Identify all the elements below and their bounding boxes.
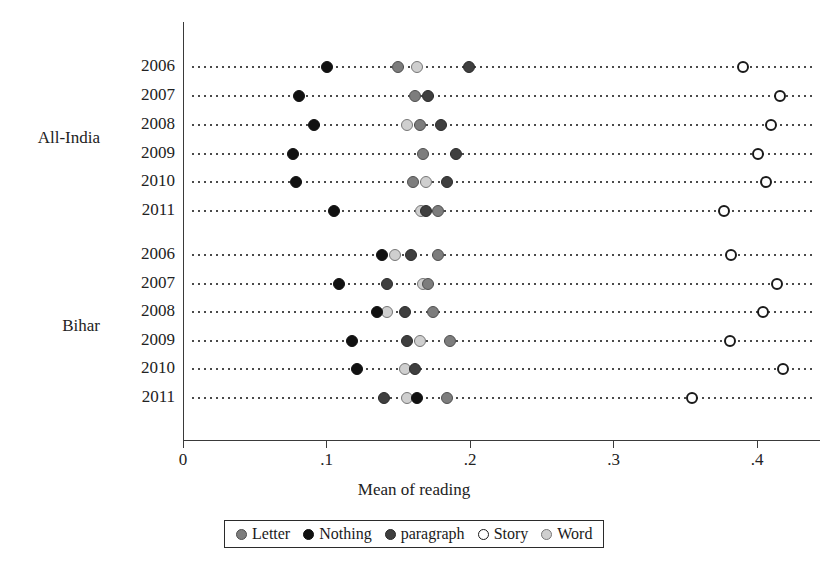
y-axis-line (183, 22, 184, 440)
legend-marker-paragraph-icon (385, 529, 396, 540)
point-bihar-2007-story (771, 278, 783, 290)
point-bihar-2011-paragraph (378, 392, 390, 404)
x-axis-title: Mean of reading (0, 480, 828, 500)
point-all-india-2010-nothing (290, 176, 302, 188)
x-tick-label-.1: .1 (307, 450, 347, 470)
x-tick-label-.3: .3 (594, 450, 634, 470)
point-all-india-2009-nothing (287, 148, 299, 160)
point-all-india-2011-nothing (328, 205, 340, 217)
point-all-india-2007-nothing (293, 90, 305, 102)
y-tick-label-all-india-2011: 2011 (105, 200, 175, 220)
y-tick-label-bihar-2008: 2008 (105, 301, 175, 321)
point-bihar-2010-nothing (351, 363, 363, 375)
row-guide-bihar-2009 (190, 340, 812, 342)
point-bihar-2007-paragraph (381, 278, 393, 290)
point-all-india-2011-letter (432, 205, 444, 217)
row-guide-bihar-2011 (190, 397, 812, 399)
row-guide-bihar-2008 (190, 311, 812, 313)
x-tick-.2 (470, 441, 471, 448)
point-bihar-2006-letter (432, 249, 444, 261)
y-tick-label-all-india-2007: 2007 (105, 85, 175, 105)
legend-label-letter: Letter (252, 526, 290, 542)
legend-marker-letter-icon (236, 529, 247, 540)
legend-item-paragraph[interactable]: paragraph (385, 526, 465, 542)
legend-marker-story-icon (478, 529, 489, 540)
legend-label-word: Word (557, 526, 592, 542)
chart-canvas: 0.1.2.3.4Mean of reading2006200720082009… (0, 0, 828, 585)
y-tick-label-all-india-2009: 2009 (105, 143, 175, 163)
legend-label-story: Story (494, 526, 529, 542)
point-all-india-2008-story (765, 119, 777, 131)
row-guide-bihar-2010 (190, 368, 812, 370)
point-bihar-2006-paragraph (405, 249, 417, 261)
point-bihar-2007-nothing (333, 278, 345, 290)
group-label-all-india: All-India (5, 128, 100, 148)
point-bihar-2008-paragraph (399, 306, 411, 318)
point-bihar-2009-paragraph (401, 335, 413, 347)
point-bihar-2006-nothing (376, 249, 388, 261)
legend-marker-nothing-icon (303, 529, 314, 540)
x-tick-label-0: 0 (163, 450, 203, 470)
legend-item-nothing[interactable]: Nothing (303, 526, 371, 542)
point-bihar-2006-story (725, 249, 737, 261)
y-tick-label-bihar-2009: 2009 (105, 330, 175, 350)
point-all-india-2006-nothing (321, 61, 333, 73)
group-label-bihar: Bihar (5, 316, 100, 336)
point-bihar-2011-letter (441, 392, 453, 404)
point-all-india-2010-paragraph (441, 176, 453, 188)
point-all-india-2006-word (411, 61, 423, 73)
row-guide-all-india-2009 (190, 153, 812, 155)
point-bihar-2007-letter (422, 278, 434, 290)
row-guide-all-india-2008 (190, 124, 812, 126)
point-bihar-2009-story (724, 335, 736, 347)
point-all-india-2006-letter (392, 61, 404, 73)
x-tick-label-.4: .4 (737, 450, 777, 470)
legend-label-paragraph: paragraph (401, 526, 465, 542)
point-all-india-2007-paragraph (422, 90, 434, 102)
y-tick-label-bihar-2007: 2007 (105, 273, 175, 293)
point-bihar-2009-letter (444, 335, 456, 347)
legend-item-letter[interactable]: Letter (236, 526, 290, 542)
point-all-india-2008-word (401, 119, 413, 131)
point-bihar-2010-story (777, 363, 789, 375)
point-all-india-2008-nothing (308, 119, 320, 131)
y-tick-label-all-india-2006: 2006 (105, 56, 175, 76)
y-tick-label-bihar-2010: 2010 (105, 358, 175, 378)
y-tick-label-bihar-2006: 2006 (105, 244, 175, 264)
row-guide-all-india-2006 (190, 66, 812, 68)
point-all-india-2006-paragraph (463, 61, 475, 73)
point-bihar-2009-word (414, 335, 426, 347)
point-all-india-2010-word (420, 176, 432, 188)
y-tick-label-bihar-2011: 2011 (105, 387, 175, 407)
row-guide-all-india-2010 (190, 181, 812, 183)
y-tick-label-all-india-2010: 2010 (105, 171, 175, 191)
point-all-india-2008-letter (414, 119, 426, 131)
x-tick-.4 (757, 441, 758, 448)
legend-marker-word-icon (541, 529, 552, 540)
point-bihar-2011-story (686, 392, 698, 404)
point-all-india-2011-story (718, 205, 730, 217)
point-all-india-2008-paragraph (435, 119, 447, 131)
point-all-india-2009-paragraph (450, 148, 462, 160)
point-all-india-2006-story (737, 61, 749, 73)
legend-label-nothing: Nothing (319, 526, 371, 542)
x-tick-label-.2: .2 (450, 450, 490, 470)
legend-item-word[interactable]: Word (541, 526, 592, 542)
point-bihar-2009-nothing (346, 335, 358, 347)
point-all-india-2009-letter (417, 148, 429, 160)
x-tick-0 (183, 441, 184, 448)
point-all-india-2011-paragraph (420, 205, 432, 217)
row-guide-all-india-2007 (190, 95, 812, 97)
y-tick-label-all-india-2008: 2008 (105, 114, 175, 134)
point-bihar-2008-letter (427, 306, 439, 318)
x-axis-line (183, 440, 820, 441)
x-tick-.1 (326, 441, 327, 448)
point-all-india-2007-story (774, 90, 786, 102)
legend-item-story[interactable]: Story (478, 526, 529, 542)
point-all-india-2010-story (760, 176, 772, 188)
point-bihar-2008-story (757, 306, 769, 318)
row-guide-bihar-2007 (190, 283, 812, 285)
row-guide-bihar-2006 (190, 254, 812, 256)
point-all-india-2009-story (752, 148, 764, 160)
chart-legend: LetterNothingparagraphStoryWord (224, 520, 604, 548)
